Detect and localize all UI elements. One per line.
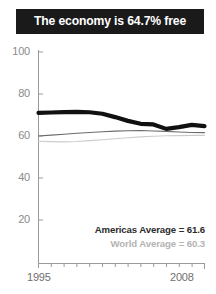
series-line-world-average	[39, 135, 205, 142]
y-tick-label-60: 60	[0, 130, 30, 141]
x-tick-label-end: 2008	[170, 272, 194, 283]
series-line-country	[39, 112, 205, 129]
y-tick-label-40: 40	[0, 172, 30, 183]
y-tick-label-80: 80	[0, 88, 30, 99]
x-axis-ticks	[39, 264, 205, 269]
y-tick-label-20: 20	[0, 214, 30, 225]
economic-freedom-chart-card: The economy is 64.7% free	[0, 0, 216, 294]
chart-legend: Americas Average = 61.6 World Average = …	[0, 223, 205, 251]
plot-area: Americas Average = 61.6 World Average = …	[0, 38, 216, 270]
header-banner: The economy is 64.7% free	[16, 9, 204, 34]
legend-item-americas-average: Americas Average = 61.6	[0, 223, 205, 237]
legend-item-world-average: World Average = 60.3	[0, 237, 205, 251]
page-title: The economy is 64.7% free	[34, 15, 186, 27]
x-tick-label-start: 1995	[27, 272, 51, 283]
y-tick-label-100: 100	[0, 46, 30, 57]
